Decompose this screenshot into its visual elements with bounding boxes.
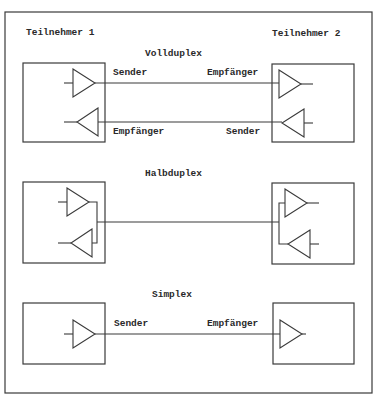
link-label: Empfänger (207, 318, 259, 329)
participant-1-box-halbduplex (23, 182, 105, 263)
link-label: Sender (113, 67, 148, 78)
link-label: Empfänger (207, 67, 259, 78)
participant-2-box-halbduplex (272, 183, 354, 264)
participant-2-label: Teilnehmer 2 (272, 28, 341, 39)
section-title-vollduplex: Vollduplex (145, 48, 202, 59)
section-title-halbduplex: Halbduplex (145, 168, 202, 179)
participant-1-label: Teilnehmer 1 (26, 27, 95, 38)
link-label: Sender (114, 318, 149, 329)
link-label: Sender (226, 126, 261, 137)
link-label: Empfänger (113, 126, 165, 137)
communication-modes-diagram: Teilnehmer 1 Teilnehmer 2 Vollduplex (0, 0, 378, 402)
section-title-simplex: Simplex (152, 289, 192, 300)
